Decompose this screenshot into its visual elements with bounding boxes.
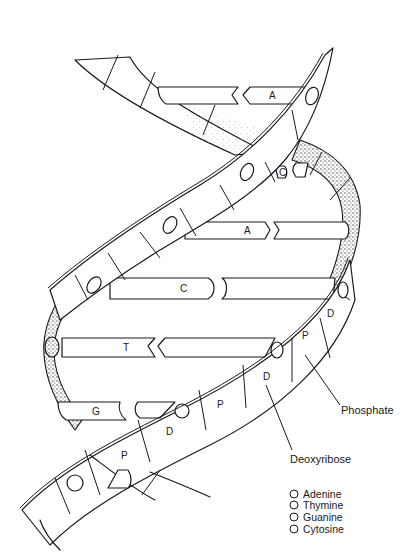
legend-item-cytosine[interactable]: Cytosine bbox=[290, 523, 344, 535]
base-label-a-top: A bbox=[269, 90, 276, 101]
base-label-c-upper: C bbox=[279, 167, 286, 178]
base-mid-upper-right bbox=[274, 222, 349, 239]
dna-diagram: A C A C T G bbox=[0, 0, 411, 558]
base-low-left bbox=[62, 338, 155, 357]
base-mid-right bbox=[222, 278, 335, 299]
backbone-label-p-3: P bbox=[121, 450, 128, 461]
backbone-label-d-3: D bbox=[166, 426, 173, 437]
radio-circle-icon[interactable] bbox=[290, 490, 298, 498]
backbone-label-d-1: D bbox=[327, 308, 334, 319]
base-label-a-mid: A bbox=[244, 225, 251, 236]
backbone-label-p-1: P bbox=[302, 330, 309, 341]
phosphate-label: Phosphate bbox=[341, 404, 394, 416]
backbone-label-p-2: P bbox=[217, 399, 224, 410]
base-mid-left bbox=[110, 278, 214, 299]
radio-circle-icon[interactable] bbox=[290, 525, 298, 533]
base-top-left bbox=[158, 87, 238, 104]
radio-circle-icon[interactable] bbox=[290, 513, 298, 521]
base-low-right bbox=[158, 338, 275, 357]
base-label-g: G bbox=[92, 406, 100, 417]
deoxyribose-label: Deoxyribose bbox=[290, 453, 351, 465]
backbone-label-d-2: D bbox=[263, 371, 270, 382]
svg-text:Cytosine: Cytosine bbox=[303, 523, 344, 535]
base-label-c-mid: C bbox=[180, 283, 187, 294]
svg-text:Thymine: Thymine bbox=[303, 499, 343, 511]
legend: Adenine Thymine Guanine Cytosine bbox=[290, 488, 344, 535]
svg-text:Guanine: Guanine bbox=[303, 511, 343, 523]
phosphate-leader-line bbox=[305, 355, 340, 405]
base-label-t: T bbox=[123, 342, 129, 353]
legend-item-thymine[interactable]: Thymine bbox=[290, 499, 343, 511]
radio-circle-icon[interactable] bbox=[290, 501, 298, 509]
legend-item-guanine[interactable]: Guanine bbox=[290, 511, 343, 523]
